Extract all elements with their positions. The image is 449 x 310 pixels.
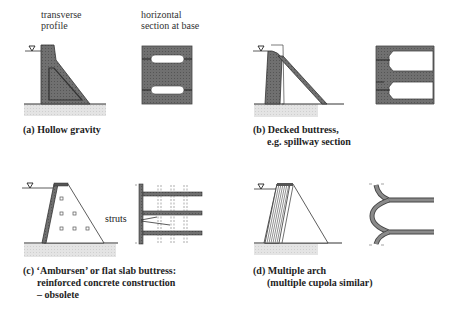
caption-b: (b) Decked buttress, e.g. spillway secti…	[253, 124, 351, 148]
caption-line: (b) Decked buttress,	[253, 124, 339, 135]
hollow-opening	[151, 86, 184, 94]
water-level-icon	[258, 46, 264, 51]
panel-b-section	[376, 46, 434, 104]
panel-c-profile	[22, 183, 118, 257]
caption-line: e.g. spillway section	[253, 136, 351, 148]
caption-a: (a) Hollow gravity	[23, 124, 101, 136]
ground	[24, 104, 106, 116]
caption-d: (d) Multiple arch (multiple cupola simil…	[253, 265, 373, 289]
leader-line	[141, 217, 157, 220]
water-level-icon	[27, 183, 33, 188]
caption-line: (a) Hollow gravity	[23, 124, 101, 135]
panel-b-profile	[253, 45, 344, 117]
ground	[254, 244, 318, 255]
caption-c: (c) ‘Ambursen’ or flat slab buttress: re…	[23, 265, 176, 301]
panel-d-section	[369, 184, 434, 245]
buttress-body	[265, 51, 282, 104]
caption-line: (multiple cupola similar)	[253, 277, 373, 289]
struts-annotation: struts	[105, 213, 127, 224]
dam-diagrams	[0, 0, 449, 310]
hollow-opening	[151, 55, 184, 63]
water-level-icon	[29, 46, 35, 51]
panel-c-section	[135, 184, 202, 244]
caption-line: – obsolete	[23, 289, 176, 301]
ground	[24, 244, 116, 257]
ground	[254, 104, 318, 117]
panel-a-section	[142, 46, 192, 104]
dam-body	[41, 45, 90, 104]
leader-line	[141, 221, 170, 225]
panel-a-profile	[24, 45, 106, 116]
caption-line: reinforced concrete construction	[23, 277, 176, 289]
caption-line: (c) ‘Ambursen’ or flat slab buttress:	[23, 265, 176, 276]
panel-d-profile	[254, 183, 342, 255]
deck-slab	[278, 56, 327, 104]
caption-line: (d) Multiple arch	[253, 265, 326, 276]
water-level-icon	[258, 184, 264, 189]
